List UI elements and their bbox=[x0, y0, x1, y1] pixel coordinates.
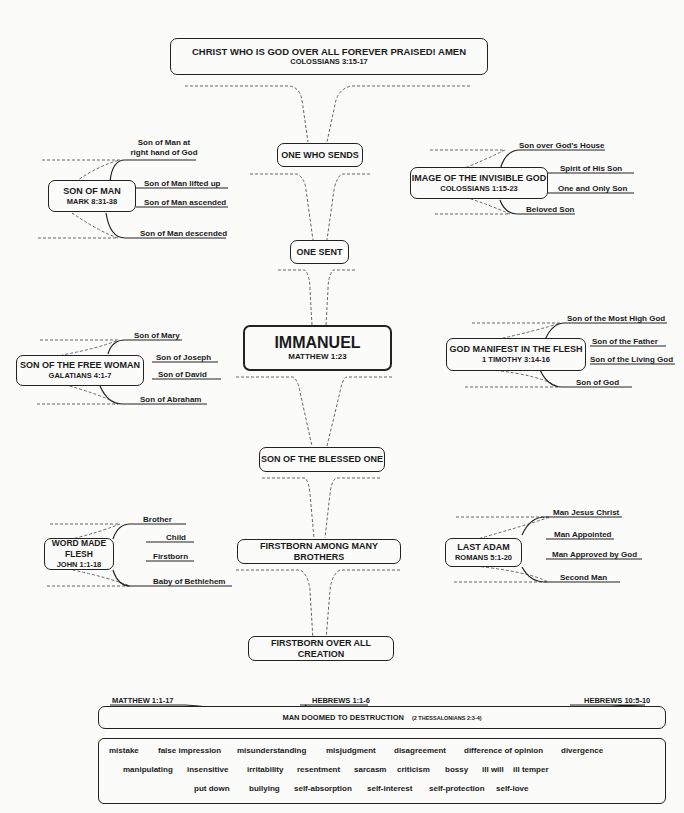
node-image-of-invisible-god[interactable]: IMAGE OF THE INVISIBLE GOD COLOSSIANS 1:… bbox=[410, 167, 548, 199]
branch-label: Son of Joseph bbox=[156, 353, 211, 363]
words-box: mistake false impression misunderstandin… bbox=[98, 738, 666, 804]
bottom-ref-matthew: MATTHEW 1:1-17 bbox=[112, 696, 174, 705]
word: criticism bbox=[397, 765, 430, 774]
word: irritability bbox=[247, 765, 283, 774]
word: bossy bbox=[445, 765, 468, 774]
node-ref: GALATIANS 4:1-7 bbox=[49, 371, 112, 381]
branch-label: Man Approved by God bbox=[552, 550, 637, 560]
node-one-sent[interactable]: ONE SENT bbox=[290, 240, 349, 264]
node-son-of-man[interactable]: SON OF MAN MARK 8:31-38 bbox=[48, 180, 136, 212]
branch-label: Firstborn bbox=[153, 552, 188, 562]
node-son-of-blessed-one[interactable]: SON OF THE BLESSED ONE bbox=[259, 447, 385, 472]
node-title: GOD MANIFEST IN THE FLESH bbox=[449, 344, 582, 355]
branch-label: Son of Abraham bbox=[140, 395, 201, 405]
word: put down bbox=[194, 784, 230, 793]
node-ref: ROMANS 5:1-20 bbox=[455, 553, 512, 563]
branch-label: One and Only Son bbox=[558, 184, 627, 194]
word: self-love bbox=[496, 784, 528, 793]
node-title: ONE WHO SENDS bbox=[281, 150, 359, 161]
node-one-who-sends[interactable]: ONE WHO SENDS bbox=[277, 143, 363, 167]
doomed-title: MAN DOOMED TO DESTRUCTION bbox=[282, 713, 404, 722]
node-last-adam[interactable]: LAST ADAM ROMANS 5:1-20 bbox=[445, 538, 522, 567]
branch-label: Man Appointed bbox=[554, 530, 611, 540]
branch-label: Son of Man descended bbox=[140, 229, 227, 239]
node-title: IMMANUEL bbox=[274, 334, 360, 352]
node-ref: MARK 8:31-38 bbox=[67, 197, 117, 207]
branch-label: Spirit of His Son bbox=[560, 164, 622, 174]
word: sarcasm bbox=[354, 765, 386, 774]
word: self-absorption bbox=[294, 784, 352, 793]
word: misunderstanding bbox=[237, 746, 306, 755]
branch-label: Son of Man at right hand of God bbox=[128, 138, 200, 158]
node-ref: COLOSSIANS 1:15-23 bbox=[440, 184, 518, 194]
node-ref: JOHN 1:1-18 bbox=[57, 560, 102, 570]
branch-label: Beloved Son bbox=[526, 205, 574, 215]
node-title: FIRSTBORN OVER ALL CREATION bbox=[249, 638, 393, 660]
node-title: ONE SENT bbox=[296, 247, 342, 258]
branch-label: Son over God's House bbox=[519, 141, 604, 151]
branch-label: Brother bbox=[143, 515, 172, 525]
node-immanuel[interactable]: IMMANUEL MATTHEW 1:23 bbox=[243, 325, 392, 371]
node-ref: MATTHEW 1:23 bbox=[288, 352, 347, 362]
title-box: CHRIST WHO IS GOD OVER ALL FOREVER PRAIS… bbox=[170, 38, 488, 75]
branch-label: Son of the Most High God bbox=[567, 314, 665, 324]
node-firstborn-over-creation[interactable]: FIRSTBORN OVER ALL CREATION bbox=[248, 636, 394, 661]
node-son-of-free-woman[interactable]: SON OF THE FREE WOMAN GALATIANS 4:1-7 bbox=[16, 355, 144, 386]
branch-label: Son of Man ascended bbox=[144, 198, 226, 208]
word: disagreement bbox=[394, 746, 446, 755]
word: divergence bbox=[561, 746, 603, 755]
branch-label: Son of the Living God bbox=[590, 355, 673, 365]
node-firstborn-among-brothers[interactable]: FIRSTBORN AMONG MANY BROTHERS bbox=[237, 539, 401, 564]
node-word-made-flesh[interactable]: WORD MADE FLESH JOHN 1:1-18 bbox=[44, 538, 114, 570]
word: manipulating bbox=[123, 765, 173, 774]
doomed-ref: (2 THESSALONIANS 2:3-4) bbox=[412, 715, 482, 721]
bottom-ref-hebrews-10: HEBREWS 10:5-10 bbox=[584, 696, 650, 705]
node-title: SON OF MAN bbox=[63, 186, 121, 197]
node-god-manifest-in-flesh[interactable]: GOD MANIFEST IN THE FLESH 1 TIMOTHY 3:14… bbox=[446, 338, 586, 371]
title-ref: COLOSSIANS 3:15-17 bbox=[290, 57, 368, 67]
word: bullying bbox=[249, 784, 280, 793]
word: insensitive bbox=[187, 765, 228, 774]
word: self-protection bbox=[429, 784, 485, 793]
node-title: SON OF THE BLESSED ONE bbox=[261, 454, 383, 465]
node-title: FIRSTBORN AMONG MANY BROTHERS bbox=[238, 541, 400, 563]
branch-label: Son of the Father bbox=[592, 337, 658, 347]
word: self-interest bbox=[367, 784, 412, 793]
branch-label: Baby of Bethlehem bbox=[153, 577, 225, 587]
branch-label: Child bbox=[166, 533, 186, 543]
branch-label: Son of Mary bbox=[134, 331, 180, 341]
word: ill temper bbox=[513, 765, 549, 774]
branch-label: Man Jesus Christ bbox=[553, 508, 619, 518]
branch-label: Second Man bbox=[560, 573, 607, 583]
node-title: IMAGE OF THE INVISIBLE GOD bbox=[412, 173, 547, 184]
word: mistake bbox=[109, 746, 139, 755]
branch-label: Son of Man lifted up bbox=[144, 179, 220, 189]
node-ref: 1 TIMOTHY 3:14-16 bbox=[482, 355, 550, 365]
node-title: WORD MADE FLESH bbox=[45, 538, 113, 560]
word: resentment bbox=[297, 765, 340, 774]
doomed-box: MAN DOOMED TO DESTRUCTION (2 THESSALONIA… bbox=[98, 706, 666, 729]
word: false impression bbox=[158, 746, 221, 755]
bottom-ref-hebrews-1: HEBREWS 1:1-6 bbox=[312, 696, 370, 705]
word: misjudgment bbox=[326, 746, 376, 755]
branch-label: Son of God bbox=[576, 378, 619, 388]
node-title: SON OF THE FREE WOMAN bbox=[20, 360, 140, 371]
connector-lines bbox=[0, 0, 684, 813]
title-text: CHRIST WHO IS GOD OVER ALL FOREVER PRAIS… bbox=[192, 46, 466, 57]
word: ill will bbox=[482, 765, 504, 774]
word: difference of opinion bbox=[464, 746, 543, 755]
branch-label: Son of David bbox=[158, 370, 207, 380]
node-title: LAST ADAM bbox=[457, 542, 510, 553]
